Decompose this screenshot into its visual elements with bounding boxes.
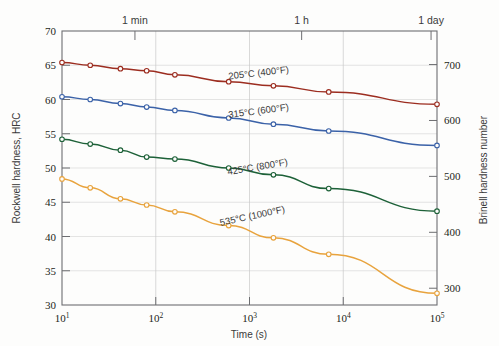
hardness-vs-tempering-time-chart: 1 min1 h1 day 303540455055606570 3004005…	[0, 0, 499, 346]
data-point	[88, 142, 93, 147]
y-tick-label: 35	[45, 265, 57, 277]
y-tick-label: 65	[45, 59, 57, 71]
data-point	[271, 84, 276, 89]
x-axis-title: Time (s)	[231, 329, 267, 340]
data-point	[173, 157, 178, 162]
data-point	[118, 148, 123, 153]
y-tick-label: 45	[45, 196, 57, 208]
data-point	[326, 252, 331, 257]
y2-tick-label: 600	[444, 114, 461, 126]
data-point	[118, 197, 123, 202]
data-point	[88, 97, 93, 102]
data-point	[435, 102, 440, 107]
y2-axis-title: Brinell hardness number	[478, 115, 489, 224]
data-point	[271, 122, 276, 127]
data-point	[118, 101, 123, 106]
data-point	[60, 94, 65, 99]
y2-tick-label: 500	[444, 170, 461, 182]
y2-tick-label: 400	[444, 226, 461, 238]
y2-tick-label: 300	[444, 282, 461, 294]
y-tick-label: 50	[45, 162, 57, 174]
data-point	[88, 186, 93, 191]
data-point	[88, 63, 93, 68]
data-point	[435, 209, 440, 214]
y-tick-label: 60	[45, 94, 57, 106]
data-point	[144, 155, 149, 160]
y2-tick-label: 700	[444, 59, 461, 71]
data-point	[118, 66, 123, 71]
data-point	[435, 291, 440, 296]
data-point	[271, 173, 276, 178]
data-point	[326, 129, 331, 134]
y-tick-label: 40	[45, 231, 57, 243]
data-point	[173, 73, 178, 78]
top-tick-label: 1 min	[122, 14, 148, 26]
data-point	[326, 90, 331, 95]
y-tick-label: 70	[45, 25, 57, 37]
data-point	[173, 210, 178, 215]
data-point	[60, 177, 65, 182]
data-point	[60, 60, 65, 65]
top-tick-label: 1 h	[294, 14, 309, 26]
data-point	[173, 108, 178, 113]
y-tick-label: 55	[45, 128, 57, 140]
left-axis-tick-labels: 303540455055606570	[45, 25, 57, 311]
data-point	[144, 203, 149, 208]
data-point	[144, 105, 149, 110]
data-point	[271, 236, 276, 241]
y-tick-label: 30	[45, 299, 57, 311]
data-point	[144, 68, 149, 73]
data-point	[326, 186, 331, 191]
y-axis-title: Rockwell hardness, HRC	[11, 112, 22, 223]
data-point	[60, 137, 65, 142]
top-tick-label: 1 day	[418, 14, 444, 26]
data-point	[435, 143, 440, 148]
